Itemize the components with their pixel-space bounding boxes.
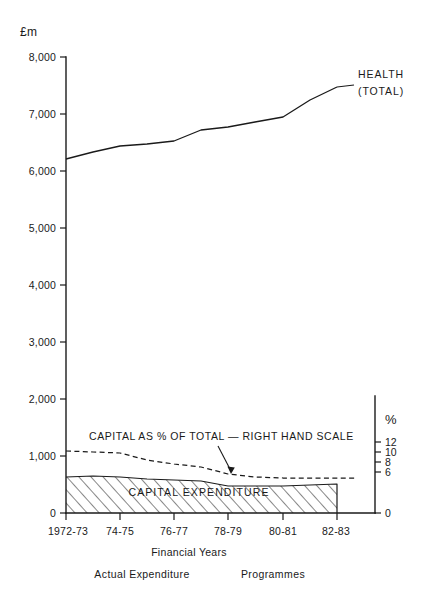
y-tick-label-6000: 6,000	[29, 165, 56, 177]
y-axis-right-unit-label: %	[385, 412, 397, 427]
y-tick-label-8000: 8,000	[29, 51, 56, 63]
series-label-capital-expenditure: CAPITAL EXPENDITURE	[128, 486, 269, 498]
y-tick-label-2000: 2,000	[29, 393, 56, 405]
y-axis-unit-label: £m	[20, 25, 37, 39]
y-tick-label-4000: 4,000	[29, 279, 56, 291]
health-label-leader-line	[337, 85, 354, 87]
series-line-capital-percent-of-total	[66, 451, 357, 478]
x-axis-title: Financial Years	[151, 546, 227, 558]
health-expenditure-chart: £m 8,000 7,000 6,000 5,000 4,000 3,000 2…	[0, 0, 424, 596]
series-label-capital-percent: CAPITAL AS % OF TOTAL — RIGHT HAND SCALE	[89, 430, 354, 442]
series-label-health-total: (TOTAL)	[358, 85, 404, 97]
percent-annotation-arrow-head	[227, 467, 234, 474]
chart-container: £m 8,000 7,000 6,000 5,000 4,000 3,000 2…	[0, 0, 424, 596]
y-right-tick-label-6: 6	[385, 466, 391, 478]
x-axis-ticks	[66, 513, 337, 520]
y-tick-label-3000: 3,000	[29, 336, 56, 348]
series-label-health: HEALTH	[358, 68, 404, 80]
series-line-health-total	[66, 87, 337, 159]
y-right-tick-label-0: 0	[385, 507, 391, 519]
phase-label-actual-expenditure: Actual Expenditure	[94, 568, 189, 580]
y-axis-right-ticks	[375, 442, 381, 513]
phase-label-programmes: Programmes	[241, 568, 305, 580]
y-tick-label-5000: 5,000	[29, 222, 56, 234]
x-tick-label-76-77: 76-77	[160, 525, 188, 537]
x-tick-label-82-83: 82-83	[322, 525, 350, 537]
x-tick-label-1972-73: 1972-73	[48, 525, 88, 537]
y-tick-label-0: 0	[50, 507, 56, 519]
x-tick-label-74-75: 74-75	[106, 525, 134, 537]
x-tick-label-80-81: 80-81	[269, 525, 297, 537]
x-tick-label-78-79: 78-79	[214, 525, 242, 537]
y-tick-label-1000: 1,000	[29, 450, 56, 462]
y-axis-left-ticks	[60, 57, 66, 513]
y-tick-label-7000: 7,000	[29, 108, 56, 120]
